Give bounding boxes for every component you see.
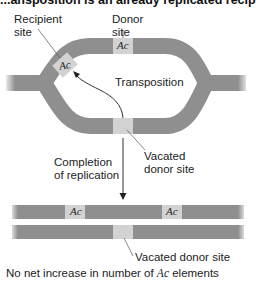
vacated-donor-box-bottom — [113, 225, 133, 239]
vacated-donor-box-top — [113, 118, 133, 134]
recipient-site-label: Recipient site — [14, 13, 62, 39]
vacated-leader-line-bottom — [124, 238, 133, 256]
recipient-ac-label: Ac — [58, 58, 72, 73]
vacated-donor-site-label-top: Vacated donor site — [144, 150, 195, 176]
donor-ac-label: Ac — [117, 39, 129, 52]
caption-ac: Ac — [157, 267, 169, 279]
donor-site-label: Donor site — [112, 13, 143, 39]
product-ac-label-1: Ac — [70, 205, 82, 218]
completion-of-replication-label: Completion of replication — [54, 156, 119, 182]
completion-arrowhead — [120, 193, 127, 200]
transposition-arrowhead — [73, 71, 80, 78]
caption: No net increase in number of Ac elements — [6, 267, 219, 280]
transposition-label: Transposition — [115, 76, 184, 89]
product-ac-label-2: Ac — [166, 205, 178, 218]
product-chromatid-1 — [12, 205, 244, 219]
vacated-donor-site-label-bottom: Vacated donor site — [135, 251, 230, 264]
